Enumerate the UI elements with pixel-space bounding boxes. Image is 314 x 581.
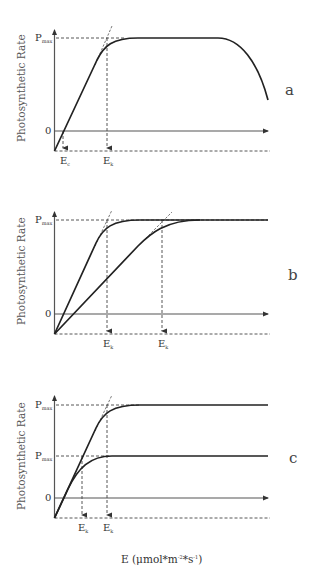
- y-axis-label-c: Photosynthetic Rate: [15, 402, 27, 510]
- ec-label-a: Ec: [60, 155, 70, 167]
- panel-label-a: a: [285, 81, 294, 99]
- pmax-label-a: Pmax: [35, 32, 52, 44]
- ek2-label-b: Ek: [158, 338, 169, 350]
- panel-a: Photosynthetic Rate Pmax 0 Ec Ek a: [15, 26, 294, 167]
- panel-label-c: c: [289, 449, 297, 467]
- pmax-label-b: Pmax: [35, 214, 52, 226]
- zero-label-c: 0: [45, 492, 51, 503]
- ek-low-label-c: Ek: [78, 522, 89, 534]
- y-axis-label-a: Photosynthetic Rate: [15, 34, 27, 142]
- panel-b: Photosynthetic Rate Pmax 0 Ek Ek b: [15, 210, 298, 350]
- ek1-label-b: Ek: [103, 338, 114, 350]
- panel-label-b: b: [288, 266, 298, 284]
- pmax-high-label-c: Pmax: [35, 399, 52, 411]
- pe-curve-figure: Photosynthetic Rate Pmax 0 Ec Ek a Photo…: [0, 0, 314, 581]
- ek-label-a: Ek: [103, 155, 114, 167]
- pe-curve-a: [55, 38, 269, 151]
- y-axis-label-b: Photosynthetic Rate: [15, 217, 27, 325]
- ek-high-label-c: Ek: [103, 522, 114, 534]
- zero-label-b: 0: [45, 308, 51, 319]
- pe-curve-low-c: [55, 456, 269, 518]
- panel-c: Photosynthetic Rate Pmax Pmax 0 Ek Ek c: [15, 395, 297, 534]
- x-axis-label: E (μmol*m-2*s-1): [121, 553, 202, 565]
- pmax-low-label-c: Pmax: [35, 450, 52, 462]
- pe-curve-steep-b: [55, 220, 269, 334]
- pe-curve-high-c: [55, 405, 269, 518]
- zero-label-a: 0: [45, 125, 51, 136]
- pe-curve-shallow-b: [55, 220, 201, 334]
